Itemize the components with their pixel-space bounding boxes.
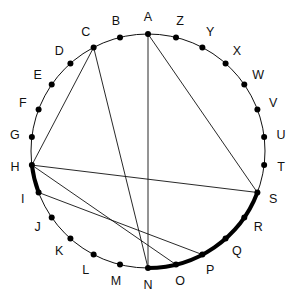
point-P xyxy=(199,252,205,258)
label-I: I xyxy=(21,192,24,206)
point-C xyxy=(91,44,97,50)
label-W: W xyxy=(252,68,264,82)
label-M: M xyxy=(111,274,121,288)
label-Y: Y xyxy=(206,25,215,39)
label-T: T xyxy=(277,160,285,174)
point-E xyxy=(49,82,55,88)
label-X: X xyxy=(233,44,242,58)
label-G: G xyxy=(10,128,20,142)
point-F xyxy=(36,107,42,113)
point-X xyxy=(223,60,229,66)
chord-C-N xyxy=(94,47,148,268)
label-A: A xyxy=(144,10,153,24)
point-O xyxy=(173,262,179,268)
label-F: F xyxy=(19,96,27,110)
point-G xyxy=(29,134,35,140)
point-S xyxy=(254,189,260,195)
label-Q: Q xyxy=(232,244,242,258)
point-Y xyxy=(199,44,205,50)
label-C: C xyxy=(81,25,90,39)
chords xyxy=(32,34,258,268)
point-T xyxy=(261,162,267,168)
point-B xyxy=(117,34,123,40)
label-Z: Z xyxy=(176,14,184,28)
label-H: H xyxy=(10,160,19,174)
label-K: K xyxy=(55,244,64,258)
label-O: O xyxy=(175,274,185,288)
label-U: U xyxy=(277,128,286,142)
label-B: B xyxy=(112,14,120,28)
chord-A-S xyxy=(148,34,257,192)
point-U xyxy=(261,134,267,140)
point-N xyxy=(145,265,151,271)
point-M xyxy=(117,262,123,268)
point-R xyxy=(241,214,247,220)
label-V: V xyxy=(269,96,278,110)
label-P: P xyxy=(206,263,214,277)
point-V xyxy=(254,107,260,113)
label-J: J xyxy=(35,220,41,234)
point-A xyxy=(145,31,151,37)
point-Q xyxy=(223,236,229,242)
point-D xyxy=(67,60,73,66)
point-H xyxy=(29,162,35,168)
label-E: E xyxy=(34,68,42,82)
label-D: D xyxy=(55,44,64,58)
circle-diagram: ABCDEFGHIJKLMNOPQRSTUVWXYZ xyxy=(0,0,299,302)
point-I xyxy=(36,189,42,195)
label-L: L xyxy=(82,263,89,277)
point-Z xyxy=(173,34,179,40)
point-J xyxy=(49,214,55,220)
point-L xyxy=(91,252,97,258)
label-S: S xyxy=(269,192,277,206)
chord-C-H xyxy=(32,47,94,165)
label-R: R xyxy=(254,220,263,234)
point-K xyxy=(67,236,73,242)
label-N: N xyxy=(143,278,152,292)
point-W xyxy=(241,82,247,88)
